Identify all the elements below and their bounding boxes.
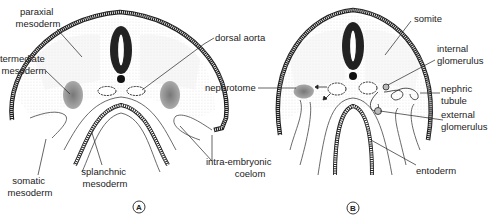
- label-intermediate-mesoderm: intermediate mesoderm: [0, 53, 47, 76]
- label-splanchnic-mesoderm: splanchnic mesoderm: [81, 166, 129, 189]
- label-entoderm: entoderm: [416, 165, 456, 176]
- gut-entoderm-b: [335, 106, 372, 175]
- svg-text:B: B: [350, 204, 356, 213]
- dorsal-aorta-b-left: [328, 83, 346, 95]
- label-internal-glomerulus: internal glomerulus: [437, 43, 484, 66]
- neural-tube-a: [110, 26, 132, 74]
- panel-marker-a: A: [133, 201, 145, 213]
- label-paraxial-mesoderm: paraxial mesoderm: [16, 6, 61, 29]
- label-somatic-mesoderm: somatic mesoderm: [8, 175, 53, 198]
- panel-a: paraxial mesoderm intermediate mesoderm …: [0, 6, 274, 213]
- panel-marker-b: B: [347, 202, 359, 214]
- label-somite: somite: [414, 13, 442, 24]
- notochord-a: [117, 75, 125, 83]
- intermediate-mesoderm-left: [63, 81, 83, 109]
- dorsal-aorta-b-right: [359, 82, 377, 94]
- neural-tube-b: [342, 22, 364, 70]
- embryo-cross-section-figure: paraxial mesoderm intermediate mesoderm …: [0, 0, 489, 221]
- notochord-b: [349, 72, 357, 80]
- label-dorsal-aorta: dorsal aorta: [215, 32, 266, 43]
- svg-text:A: A: [136, 203, 142, 212]
- intermediate-mesoderm-right: [160, 81, 180, 109]
- label-nephrotome: nephrotome: [205, 82, 256, 93]
- dorsal-aorta-a-left: [98, 87, 116, 96]
- label-external-glomerulus: external glomerulus: [441, 109, 488, 132]
- dorsal-aorta-a-right: [127, 87, 145, 96]
- somite: [290, 30, 345, 90]
- somatic-mesoderm-a-right: [174, 115, 212, 140]
- label-nephric-tubule: nephric tubule: [441, 83, 475, 106]
- label-intra-embryonic-coelom: intra-embryonic coelom: [206, 156, 274, 179]
